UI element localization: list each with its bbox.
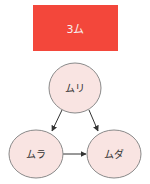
node-muda-label: ムダ — [104, 148, 124, 160]
diagram-canvas: ムリ ムラ ムダ — [0, 0, 150, 184]
node-mura: ムラ — [9, 130, 63, 178]
node-mura-label: ムラ — [26, 149, 46, 160]
node-muri: ムリ — [49, 63, 101, 113]
edge-muri-mura — [52, 110, 62, 131]
node-muri-label: ムリ — [65, 83, 85, 94]
node-muda: ムダ — [87, 130, 141, 178]
edge-muri-muda — [89, 110, 98, 131]
